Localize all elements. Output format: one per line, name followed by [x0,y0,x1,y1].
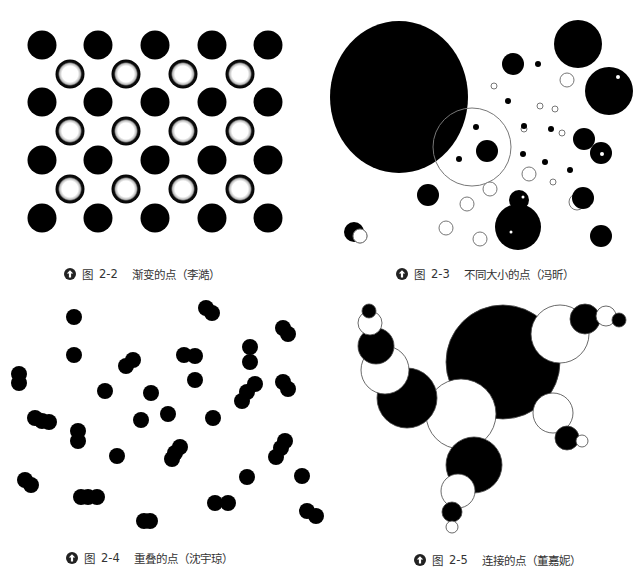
outline-dot [552,106,558,112]
caption-title: 重叠的点（沈宇琼） [134,550,233,566]
solid-dot [520,151,526,157]
gradient-ring-dot [112,117,141,146]
overlap-dot [187,372,203,388]
outline-dot-overlap [353,229,367,243]
chain-circle-black [570,304,600,334]
outline-dot [537,103,543,109]
outline-dot [559,130,565,136]
highlight-spot [591,205,594,208]
outline-dot [491,83,497,89]
overlap-dot [187,348,203,364]
solid-dot [585,67,633,115]
caption-figure-2-2: 图 2-2 渐变的点（李澔） [64,266,220,282]
outline-dot [550,179,556,185]
gradient-ring-dot [226,175,255,204]
overlap-dot [143,385,159,401]
up-arrow-circle-icon [396,268,408,280]
caption-figure-2-3: 图 2-3 不同大小的点（冯昕） [396,266,574,282]
highlight-spot [522,196,525,199]
overlap-dot [205,410,221,426]
caption-prefix: 图 [414,266,425,282]
up-arrow-circle-icon [64,268,76,280]
chain-circle-black [362,304,376,318]
chain-circle-white [576,435,588,447]
solid-dot [28,204,57,233]
highlight-spot [600,152,604,156]
caption-title: 连接的点（董嘉妮） [482,552,581,568]
up-arrow-circle-icon [414,554,426,566]
solid-dot [254,204,283,233]
overlap-dot [89,489,105,505]
large-ellipse [330,21,468,173]
overlap-dot [234,393,250,409]
caption-figure-2-5: 图 2-5 连接的点（董嘉妮） [414,552,581,568]
overlap-dot [133,412,149,428]
overlap-dot [242,354,258,370]
overlap-dot [268,449,284,465]
caption-title: 不同大小的点（冯昕） [464,266,574,282]
figures-canvas [0,0,643,571]
solid-dot [84,146,113,175]
chain-circle-black [555,426,579,450]
solid-dot [28,146,57,175]
overlap-dot [204,305,220,321]
solid-dot [476,140,498,162]
solid-dot [548,126,554,132]
caption-title: 渐变的点（李澔） [132,266,220,282]
solid-dot [254,146,283,175]
solid-dot [502,53,524,75]
solid-dot [554,20,602,68]
solid-dot [254,31,283,60]
solid-dot [198,31,227,60]
overlap-dot [23,477,39,493]
chain-circle-white [441,474,475,508]
chain-circle-black [612,313,626,327]
caption-prefix: 图 [432,552,443,568]
solid-dot [535,61,541,67]
solid-dot [573,128,595,150]
gradient-ring-dot [169,117,198,146]
outline-dot [522,167,536,181]
gradient-ring-dot [56,60,85,89]
gradient-ring-dot [56,117,85,146]
highlight-spot [616,75,620,79]
up-arrow-circle-icon [66,552,78,564]
solid-dot [141,31,170,60]
solid-dot [84,204,113,233]
outline-dot [560,73,574,87]
solid-dot [28,88,57,117]
chain-circle-white [426,379,496,449]
solid-dot [84,31,113,60]
caption-number: 2-2 [99,267,118,281]
overlap-dot [308,508,324,524]
overlap-dot [70,433,86,449]
gradient-ring-dot [169,175,198,204]
gradient-ring-dot [226,60,255,89]
solid-dot [495,204,541,250]
overlap-dot [41,414,57,430]
overlap-dot [164,451,180,467]
overlap-dot [11,375,27,391]
figure-2-5-connected-dots [358,304,626,533]
gradient-ring-dot [56,175,85,204]
overlap-dot [97,383,113,399]
overlap-dot [220,495,236,511]
highlight-spot [510,231,513,234]
solid-dot [456,156,462,162]
overlap-dot [66,347,82,363]
overlap-dot [294,468,310,484]
solid-dot [417,184,439,206]
overlap-dot [118,358,134,374]
overlap-dot [242,339,258,355]
solid-dot [254,88,283,117]
overlap-dot [280,381,296,397]
overlap-dot [280,326,296,342]
overlap-dot [66,309,82,325]
figure-2-3-different-size-dots [330,20,633,250]
caption-figure-2-4: 图 2-4 重叠的点（沈宇琼） [66,550,233,566]
solid-dot [141,204,170,233]
figure-2-2-gradient-dots [28,31,283,233]
solid-dot [141,146,170,175]
outline-dot [439,221,453,235]
overlap-dot [109,448,125,464]
